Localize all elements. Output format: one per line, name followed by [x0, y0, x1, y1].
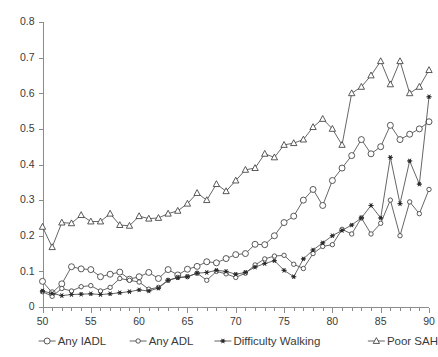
series-markers: [40, 95, 432, 298]
legend-item-any-adl[interactable]: Any ADL: [130, 335, 194, 347]
x-tick-label: 55: [85, 315, 97, 327]
chart-legend: Any IADLAny ADLDifficulty WalkingPoor SA…: [39, 335, 438, 347]
series-markers: [40, 187, 431, 298]
x-tick-label: 90: [423, 315, 435, 327]
y-tick-label: 0.5: [20, 122, 35, 134]
open-circle-small-icon: [136, 339, 140, 343]
legend-label: Poor SAH: [387, 335, 438, 347]
y-tick-label: 0.2: [20, 229, 35, 241]
legend-label: Any ADL: [149, 335, 194, 347]
legend-label: Difficulty Walking: [233, 335, 320, 347]
series-markers: [40, 119, 433, 296]
x-tick-label: 70: [230, 315, 242, 327]
y-tick-label: 0.7: [20, 51, 35, 63]
x-tick-label: 60: [133, 315, 145, 327]
legend-item-any-iadl[interactable]: Any IADL: [39, 335, 107, 347]
y-tick-label: 0: [29, 300, 35, 312]
y-tick-label: 0.8: [20, 15, 35, 27]
x-tick-label: 85: [375, 315, 387, 327]
line-chart: 00.10.20.30.40.50.60.70.8 50556065707580…: [0, 0, 438, 357]
series-any-iadl: [40, 119, 433, 296]
series-layer: [39, 58, 432, 299]
x-axis: 505560657075808590: [37, 308, 435, 328]
series-difficulty-walking: [40, 95, 432, 298]
open-triangle-icon: [373, 338, 379, 344]
open-circle-large-icon: [44, 338, 50, 344]
x-tick-label: 50: [37, 315, 49, 327]
series-any-adl: [40, 187, 431, 298]
legend-label: Any IADL: [58, 335, 107, 347]
x-tick-label: 80: [327, 315, 339, 327]
legend-item-difficulty-walking[interactable]: Difficulty Walking: [214, 335, 320, 347]
y-tick-label: 0.4: [20, 158, 35, 170]
y-tick-label: 0.6: [20, 87, 35, 99]
y-tick-label: 0.3: [20, 193, 35, 205]
y-axis: 00.10.20.30.40.50.60.70.8: [20, 15, 43, 312]
filled-star-icon: [220, 339, 225, 343]
chart-container: 00.10.20.30.40.50.60.70.8 50556065707580…: [0, 0, 438, 357]
y-tick-label: 0.1: [20, 265, 35, 277]
legend-item-poor-sah[interactable]: Poor SAH: [368, 335, 438, 347]
x-tick-label: 65: [182, 315, 194, 327]
x-tick-label: 75: [278, 315, 290, 327]
